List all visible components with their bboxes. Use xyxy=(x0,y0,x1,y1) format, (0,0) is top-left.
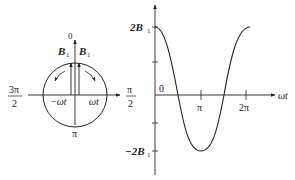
label-x-axis: ωt xyxy=(278,90,288,101)
label-origin: 0 xyxy=(159,83,164,94)
label-b1-left-sub: 1 xyxy=(66,51,70,59)
label-pi-over-2-num: π xyxy=(127,84,132,95)
label-3pi-over-2-num: 3π xyxy=(9,84,19,95)
label-minus-omega-t: −ωt xyxy=(50,96,67,107)
label-pi-over-2-den: 2 xyxy=(128,98,133,109)
label-b1-right: B xyxy=(78,45,86,57)
label-angle-pi: π xyxy=(72,128,77,139)
diagram-canvas: 0 π B 1 B 1 −ωt ωt 3π 2 π 2 0 2B 1 −2B 1… xyxy=(0,0,295,180)
label-b1-left: B xyxy=(57,45,65,57)
label-x-tick-2pi: 2π xyxy=(239,102,249,113)
label-y-min-sub: 1 xyxy=(147,151,151,159)
label-y-max-sub: 1 xyxy=(147,27,151,35)
label-omega-t: ωt xyxy=(89,96,99,107)
waveform-plot: 0 2B 1 −2B 1 π 2π ωt xyxy=(125,5,288,175)
rotation-arrow-left xyxy=(55,71,65,81)
label-x-tick-pi: π xyxy=(197,102,202,113)
cosine-curve xyxy=(155,27,250,151)
label-y-max: 2B xyxy=(129,21,143,33)
label-b1-right-sub: 1 xyxy=(87,51,91,59)
label-angle-zero: 0 xyxy=(68,31,73,41)
label-3pi-over-2-den: 2 xyxy=(12,98,17,109)
rotation-arrow-right xyxy=(85,71,95,81)
label-y-min: −2B xyxy=(125,145,145,157)
phasor-diagram: 0 π B 1 B 1 −ωt ωt 3π 2 π 2 xyxy=(8,31,136,139)
